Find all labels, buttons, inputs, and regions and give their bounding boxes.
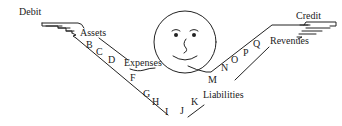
letter-n: N (221, 63, 228, 73)
letter-p: P (243, 48, 249, 58)
letter-o: O (231, 55, 238, 65)
debit-label: Debit (19, 7, 41, 17)
letter-i: I (165, 107, 168, 117)
letter-g: G (143, 89, 150, 99)
right-arm-inner-line (235, 47, 269, 80)
credit-label: Credit (296, 11, 321, 21)
letter-f: F (130, 73, 136, 83)
assets-label: Assets (80, 28, 106, 38)
letter-j: J (180, 106, 184, 116)
letter-d: D (108, 55, 115, 65)
revenues-label: Revenues (270, 36, 309, 46)
letter-b: B (86, 40, 93, 50)
left-hand-icon (42, 23, 84, 38)
diagram-drawing (0, 0, 342, 126)
expenses-connector (130, 68, 155, 71)
letter-c: C (96, 47, 103, 57)
letter-q: Q (253, 39, 260, 49)
liabilities-label: Liabilities (203, 90, 244, 100)
debit-credit-diagram: Debit Assets Expenses Credit Revenues Li… (0, 0, 342, 126)
letter-h: H (152, 97, 159, 107)
expenses-label: Expenses (124, 58, 162, 68)
letter-k: K (191, 97, 198, 107)
smiling-face-icon (154, 11, 216, 73)
letter-m: M (208, 75, 217, 85)
